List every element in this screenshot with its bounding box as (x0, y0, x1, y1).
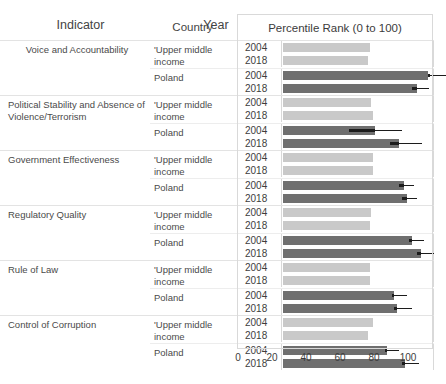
bar (283, 166, 373, 175)
error-bar-inner (428, 74, 430, 77)
bar-cell (281, 109, 434, 122)
axis-tick-80: 80 (368, 352, 379, 363)
year-label: 2004 (236, 41, 281, 54)
error-bar-inner (390, 142, 399, 145)
bar-cell (281, 219, 434, 232)
bar (283, 291, 394, 300)
bar-cell (281, 124, 434, 137)
table-row: 2018 (236, 247, 434, 260)
year-label: 2018 (236, 219, 281, 232)
indicator-label: Rule of Law (0, 261, 150, 315)
bar (283, 318, 373, 327)
table-row: 2004 (236, 69, 434, 82)
year-label: 2018 (236, 274, 281, 287)
bar (283, 98, 371, 107)
country-block: 'Upper middle income20042018 (150, 316, 434, 343)
year-label: 2004 (236, 96, 281, 109)
table-row: 2004 (236, 289, 434, 302)
indicator-group: Rule of Law'Upper middle income20042018P… (0, 260, 434, 315)
year-label: 2018 (236, 192, 281, 205)
table-row: 2018 (236, 302, 434, 315)
indicator-group: Regulatory Quality'Upper middle income20… (0, 205, 434, 260)
header-indicator: Indicator (8, 18, 153, 32)
bar (283, 208, 371, 217)
country-label: Poland (150, 124, 236, 150)
table-row: 2004 (236, 41, 434, 54)
bar-cell (281, 329, 434, 342)
header-year: Year (196, 18, 236, 32)
x-axis: 020406080100 (237, 348, 433, 368)
indicator-label: Voice and Accountability (0, 41, 150, 95)
table-row: 2018 (236, 109, 434, 122)
bar (283, 139, 399, 148)
year-label: 2004 (236, 69, 281, 82)
year-label: 2004 (236, 124, 281, 137)
country-block: Poland20042018 (150, 68, 434, 95)
year-label: 2004 (236, 206, 281, 219)
bar-cell (281, 234, 434, 247)
bar-cell (281, 41, 434, 54)
country-block: Poland20042018 (150, 288, 434, 315)
error-bar-inner (409, 239, 412, 242)
country-block: Poland20042018 (150, 123, 434, 150)
table-row: 2018 (236, 219, 434, 232)
indicator-group: Government Effectiveness'Upper middle in… (0, 150, 434, 205)
indicator-label: Political Stability and Absence of Viole… (0, 96, 150, 150)
table-row: 2018 (236, 164, 434, 177)
country-block: Poland20042018 (150, 178, 434, 205)
bar-cell (281, 289, 434, 302)
country-label: 'Upper middle income (150, 96, 236, 123)
country-block: 'Upper middle income20042018 (150, 261, 434, 288)
error-bar-inner (417, 252, 420, 255)
indicator-label: Government Effectiveness (0, 151, 150, 205)
error-bar (428, 75, 446, 76)
axis-tick-60: 60 (334, 352, 345, 363)
country-label: 'Upper middle income (150, 206, 236, 233)
country-label: Poland (150, 289, 236, 315)
country-block: Poland20042018 (150, 233, 434, 260)
country-block: 'Upper middle income20042018 (150, 151, 434, 178)
table-row: 2004 (236, 234, 434, 247)
bar-cell (281, 247, 434, 260)
year-label: 2004 (236, 289, 281, 302)
year-label: 2004 (236, 179, 281, 192)
year-label: 2004 (236, 316, 281, 329)
bar (283, 194, 407, 203)
bar (283, 56, 368, 65)
error-bar (392, 295, 407, 296)
bar-cell (281, 206, 434, 219)
table-row: 2004 (236, 206, 434, 219)
header-percentile-rank: Percentile Rank (0 to 100) (237, 14, 433, 40)
table-row: 2018 (236, 82, 434, 95)
year-label: 2018 (236, 137, 281, 150)
table-row: 2004 (236, 124, 434, 137)
country-label: 'Upper middle income (150, 41, 236, 68)
bar-cell (281, 54, 434, 67)
year-label: 2018 (236, 54, 281, 67)
axis-tick-100: 100 (400, 352, 417, 363)
indicator-group: Political Stability and Absence of Viole… (0, 95, 434, 150)
error-bar-inner (392, 294, 394, 297)
table-row: 2004 (236, 261, 434, 274)
table-row: 2018 (236, 137, 434, 150)
bar-cell (281, 192, 434, 205)
indicator-label: Control of Corruption (0, 316, 150, 370)
country-label: 'Upper middle income (150, 151, 236, 178)
country-block: 'Upper middle income20042018 (150, 96, 434, 123)
bar (283, 276, 370, 285)
axis-tick-40: 40 (300, 352, 311, 363)
bar-cell (281, 69, 434, 82)
bar-cell (281, 261, 434, 274)
bar-cell (281, 137, 434, 150)
bar (283, 263, 370, 272)
table-row: 2018 (236, 192, 434, 205)
year-label: 2018 (236, 302, 281, 315)
country-label: 'Upper middle income (150, 316, 236, 343)
year-label: 2004 (236, 261, 281, 274)
bar-cell (281, 164, 434, 177)
bar-cell (281, 316, 434, 329)
error-bar-inner (402, 197, 407, 200)
country-label: Poland (150, 234, 236, 260)
table-row: 2018 (236, 274, 434, 287)
